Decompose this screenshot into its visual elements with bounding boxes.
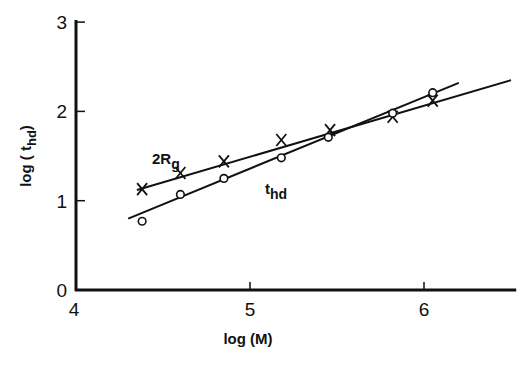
x-tick-label: 4 [69,299,80,320]
y-axis-label: log ( thd) [17,125,39,187]
circle-marker [177,191,185,199]
y-tick-label: 0 [56,280,67,301]
svg-text:log ( thd): log ( thd) [17,125,39,187]
y-tick-label: 3 [56,12,67,33]
x-marker [276,134,286,146]
circle-marker [389,109,397,117]
x-marker [219,155,229,167]
axes [75,20,516,291]
data-points [137,89,438,225]
circle-marker [138,217,146,225]
circle-marker [220,175,228,183]
circle-marker [325,133,333,141]
fit-line-2Rg [137,80,511,190]
series-label-2rg: 2Rg [152,150,180,172]
x-tick-label: 5 [245,299,256,320]
tick-labels: 0123456 [56,12,429,320]
y-tick-label: 2 [56,101,67,122]
series-label-thd: thd [265,180,287,202]
circle-marker [278,154,286,162]
fit-lines [128,80,511,218]
circle-marker [429,89,437,97]
x-tick-label: 6 [419,299,430,320]
x-axis-label: log (M) [223,330,272,347]
y-tick-label: 1 [56,191,67,212]
chart-canvas: 0123456 log (M) log ( thd) 2Rg thd [0,0,529,371]
